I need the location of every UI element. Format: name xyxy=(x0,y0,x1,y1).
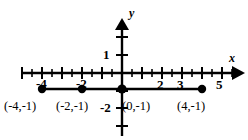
point-label-minus4-minus1: (-4,-1) xyxy=(4,100,36,113)
x-tick-label-5: 5 xyxy=(216,78,223,91)
point-label-minus2-minus1: (-2,-1) xyxy=(56,100,88,113)
point-label-0-minus1: (0,-1) xyxy=(122,100,150,113)
point-marker xyxy=(117,84,126,93)
y-tick-label-1: 1 xyxy=(103,48,110,61)
x-tick-label-minus-2: -2 xyxy=(76,77,87,90)
y-tick-label-minus-2: -2 xyxy=(100,101,111,114)
x-axis-arrowhead xyxy=(232,66,245,80)
x-axis-label: x xyxy=(229,52,235,64)
x-tick-label-minus-4: -4 xyxy=(36,77,47,90)
y-axis-label: y xyxy=(129,7,134,19)
coordinate-plane-figure: y x 1 -2 -4 -2 2 3 5 (-4,-1) (-2,-1) (0,… xyxy=(0,0,248,140)
x-tick-label-3: 3 xyxy=(177,78,184,91)
point-label-4-minus1: (4,-1) xyxy=(177,100,205,113)
graph-canvas xyxy=(0,0,248,140)
y-axis-arrowhead xyxy=(115,18,129,30)
x-tick-label-2: 2 xyxy=(157,78,164,91)
point-marker xyxy=(198,85,206,93)
